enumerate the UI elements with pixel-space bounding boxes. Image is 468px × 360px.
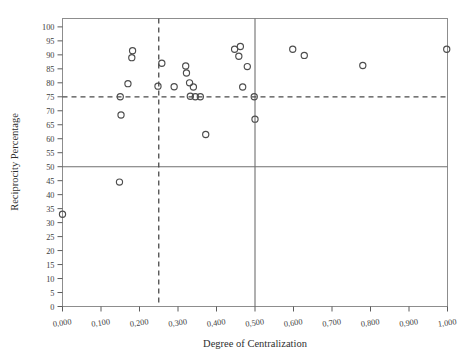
y-tick-label: 20	[46, 247, 54, 256]
data-point	[237, 43, 243, 49]
scatter-chart: 0510152025303540455055606570758085909510…	[0, 0, 468, 360]
x-tick-label: 0,500	[245, 317, 265, 329]
data-point	[240, 84, 246, 90]
data-point	[129, 48, 135, 54]
y-tick-label: 55	[46, 149, 54, 158]
data-point	[118, 112, 124, 118]
data-point	[183, 63, 189, 69]
y-tick-label: 95	[46, 37, 54, 46]
y-tick-label: 35	[46, 205, 54, 214]
data-point	[301, 52, 307, 58]
data-point	[155, 83, 161, 89]
data-point	[116, 179, 122, 185]
x-tick-label: 1,000	[437, 317, 457, 329]
y-tick-label: 40	[46, 191, 54, 200]
y-tick-label: 60	[46, 135, 54, 144]
y-tick-label: 90	[46, 51, 54, 60]
x-axis-title: Degree of Centralization	[203, 338, 308, 349]
y-axis-title: Reciprocity Percentage	[9, 113, 20, 211]
x-tick-label: 0,100	[91, 317, 111, 329]
y-tick-label: 50	[46, 163, 54, 172]
data-point	[171, 84, 177, 90]
x-tick-label: 0,200	[129, 317, 149, 329]
data-point	[236, 53, 242, 59]
y-tick-label: 15	[46, 261, 54, 270]
x-tick-label: 0,900	[399, 317, 419, 329]
data-point	[244, 63, 250, 69]
y-tick-label: 100	[42, 23, 54, 32]
data-point	[129, 55, 135, 61]
data-point	[159, 60, 165, 66]
y-tick-label: 10	[46, 275, 54, 284]
x-tick-label: 0,700	[322, 317, 342, 329]
x-tick-label: 0,600	[283, 317, 303, 329]
y-tick-label: 30	[46, 219, 54, 228]
x-tick-label: 0,800	[360, 317, 380, 329]
x-tick-label: 0,000	[52, 317, 72, 329]
y-tick-label: 65	[46, 121, 54, 130]
data-point	[183, 70, 189, 76]
x-tick-label: 0,300	[168, 317, 188, 329]
y-tick-label: 45	[46, 177, 54, 186]
data-point	[125, 81, 131, 87]
y-tick-label: 5	[50, 289, 54, 298]
reference-lines-layer	[63, 19, 448, 307]
x-tick-label: 0,400	[206, 317, 226, 329]
data-point	[203, 131, 209, 137]
plot-svg: 0510152025303540455055606570758085909510…	[0, 0, 468, 360]
data-point	[444, 46, 450, 52]
y-tick-label: 80	[46, 79, 54, 88]
y-tick-label: 70	[46, 107, 54, 116]
y-tick-label: 0	[50, 303, 54, 312]
y-tick-label: 85	[46, 65, 54, 74]
y-tick-label: 25	[46, 233, 54, 242]
data-point	[360, 62, 366, 68]
data-point	[190, 84, 196, 90]
y-tick-label: 75	[46, 93, 54, 102]
data-point	[290, 46, 296, 52]
